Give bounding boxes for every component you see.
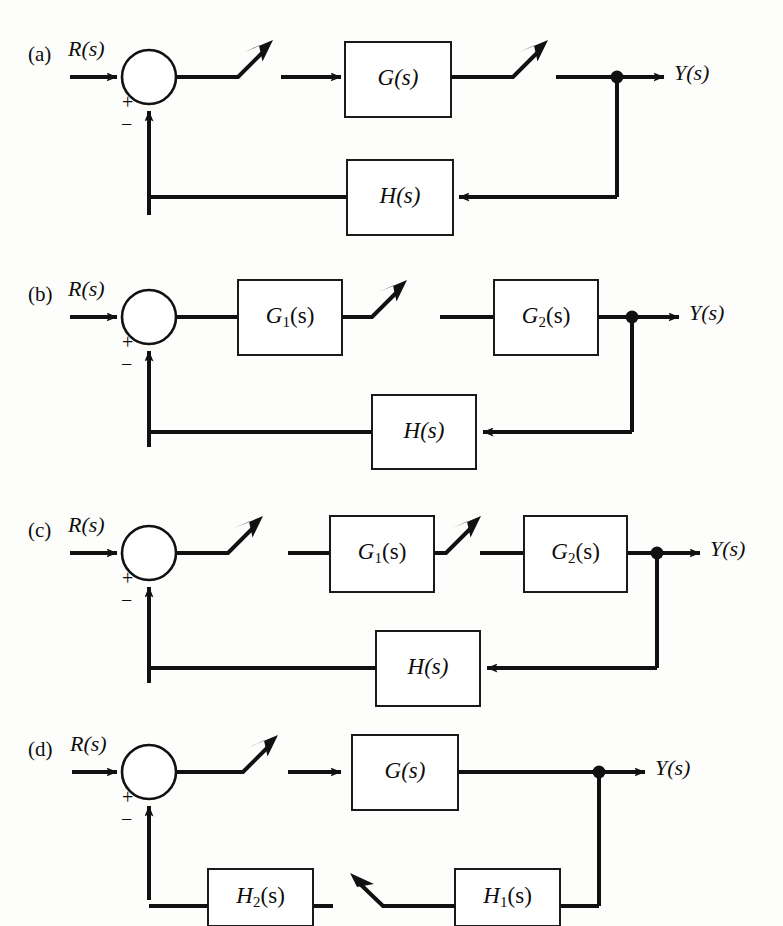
output-label-a: Y(s) <box>674 62 709 84</box>
plus-sign-c: + <box>122 568 133 588</box>
plus-sign-b: + <box>122 332 133 352</box>
break-link-b-1-stem <box>342 289 400 317</box>
panel-tag-b: (b) <box>28 284 53 305</box>
panel-tag-c: (c) <box>28 520 51 541</box>
block-label-h-b: H(s) <box>372 419 476 442</box>
panel-tag-a: (a) <box>28 44 51 65</box>
break-link-c-2-stem <box>434 525 474 553</box>
block-diagram-vectors <box>0 0 783 926</box>
block-label-g-a: G(s) <box>345 66 451 89</box>
break-link-a-1-stem <box>176 49 266 77</box>
block-label-h-c: H(s) <box>376 655 480 678</box>
minus-sign-b: − <box>121 354 132 374</box>
block-label-h1-d: H1(s) <box>455 884 560 910</box>
output-label-c: Y(s) <box>710 538 745 560</box>
block-label-h-a: H(s) <box>347 184 453 207</box>
input-label-d: R(s) <box>70 733 107 755</box>
panel-tag-d: (d) <box>28 739 53 760</box>
block-label-g2-c: G2(s) <box>524 540 627 566</box>
block-label-g1-c: G1(s) <box>330 540 434 566</box>
figure-canvas: (a) R(s) + − G(s) H(s) Y(s) (b) R(s) + −… <box>0 0 783 926</box>
input-label-a: R(s) <box>68 38 105 60</box>
block-label-g1-b: G1(s) <box>238 304 342 330</box>
minus-sign-a: − <box>121 114 132 134</box>
break-link-d-2-stem <box>358 882 455 906</box>
output-label-b: Y(s) <box>689 302 724 324</box>
break-link-d-1-stem <box>176 744 271 772</box>
minus-sign-c: − <box>121 590 132 610</box>
plus-sign-d: + <box>122 787 133 807</box>
block-label-h2-d: H2(s) <box>208 884 313 910</box>
output-label-d: Y(s) <box>655 757 690 779</box>
plus-sign-a: + <box>122 92 133 112</box>
input-label-c: R(s) <box>68 514 105 536</box>
minus-sign-d: − <box>121 809 132 829</box>
break-link-c-1-stem <box>176 525 256 553</box>
block-label-g-d: G(s) <box>352 759 458 782</box>
block-label-g2-b: G2(s) <box>494 304 598 330</box>
input-label-b: R(s) <box>68 278 105 300</box>
break-link-a-2-stem <box>451 49 541 77</box>
